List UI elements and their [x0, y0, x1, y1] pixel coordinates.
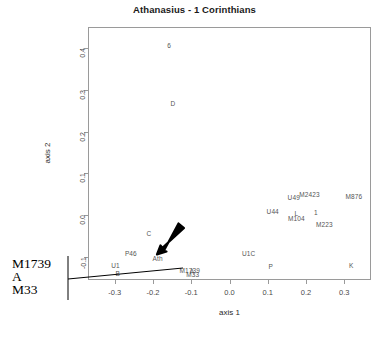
x-axis-title: axis 1	[88, 308, 371, 317]
data-point-label: C	[146, 230, 151, 237]
x-axis-tick-mark	[344, 280, 345, 284]
data-point-label: 6	[167, 41, 171, 48]
x-axis-tick-mark	[268, 280, 269, 284]
data-point-label: U1	[111, 262, 120, 269]
data-point-label: U49	[288, 194, 300, 201]
x-axis-tick-label: -0.1	[185, 288, 198, 297]
y-axis-tick-label: 0.4	[80, 48, 87, 58]
overlap-callout-text: M1739AM33	[12, 258, 51, 296]
scatter-plot-figure: Athanasius - 1 Corinthians 6DU49M2423M87…	[0, 0, 389, 339]
x-axis-tick-mark	[306, 280, 307, 284]
data-point-label: U1C	[242, 250, 255, 257]
x-axis-tick-mark	[153, 280, 154, 284]
data-point-label: D	[170, 100, 175, 107]
y-axis-tick-label: -0.1	[80, 257, 87, 269]
data-point-label: M876	[345, 192, 362, 199]
y-axis-title: axis 2	[43, 143, 52, 164]
y-axis-tick-label: 0.2	[80, 132, 87, 142]
data-point-label: Ath	[153, 255, 163, 262]
data-point-label: B	[116, 269, 120, 276]
page-title: Athanasius - 1 Corinthians	[0, 4, 389, 15]
data-point-label: M33	[186, 271, 199, 278]
x-axis-tick-mark	[230, 280, 231, 284]
data-point-label: M104	[288, 215, 305, 222]
callout-line: M33	[12, 284, 51, 297]
x-axis-tick-label: -0.3	[108, 288, 121, 297]
x-axis-tick-mark	[115, 280, 116, 284]
data-point-layer: 6DU49M2423M876U44LM1041M223CP46AthU1CPKU…	[88, 27, 371, 280]
x-axis-tick-label: 0.0	[224, 288, 234, 297]
x-axis-tick-label: 0.1	[263, 288, 273, 297]
data-point-label: U44	[267, 207, 279, 214]
data-point-label: M2423	[299, 190, 319, 197]
x-axis-tick-mark	[191, 280, 192, 284]
data-point-label: K	[349, 261, 353, 268]
x-axis-tick-label: 0.2	[301, 288, 311, 297]
data-point-label: M223	[316, 221, 333, 228]
x-axis-tick-label: 0.3	[339, 288, 349, 297]
y-axis-tick-label: 0.3	[80, 90, 87, 100]
data-point-label: P	[269, 262, 273, 269]
data-point-label: 1	[314, 208, 318, 215]
y-axis-tick-label: 0.0	[80, 215, 87, 225]
y-axis-tick-label: 0.1	[80, 173, 87, 183]
x-axis-tick-label: -0.2	[147, 288, 160, 297]
data-point-label: P46	[125, 249, 137, 256]
